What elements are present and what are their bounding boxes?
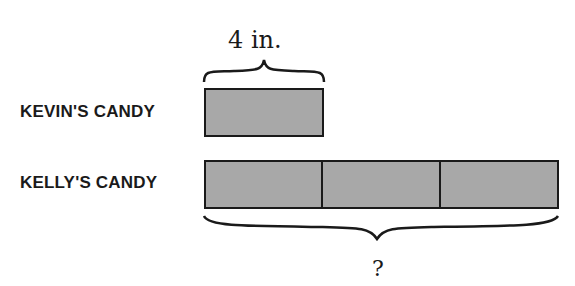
top-brace-icon: [200, 58, 328, 84]
segment-divider: [439, 162, 441, 207]
kevin-candy-bar: [204, 88, 324, 137]
segment-divider: [321, 162, 323, 207]
row-label-kevin: KEVIN'S CANDY: [20, 102, 155, 122]
row-label-kelly: KELLY'S CANDY: [20, 173, 157, 193]
kelly-candy-bar: [204, 160, 559, 209]
top-measure-label: 4 in.: [228, 26, 282, 54]
bottom-brace-icon: [200, 212, 562, 242]
bottom-measure-label: ?: [372, 256, 384, 281]
